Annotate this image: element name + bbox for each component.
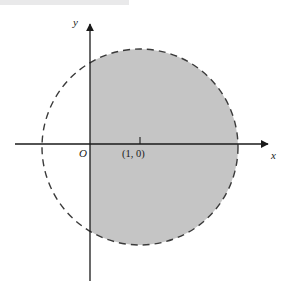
tick-label-one-zero: (1, 0) — [122, 149, 145, 160]
x-axis-label: x — [271, 150, 276, 161]
shaded-region — [42, 49, 238, 245]
figure-canvas: y x O (1, 0) — [0, 0, 285, 289]
y-axis-label: y — [73, 17, 78, 28]
origin-label: O — [79, 148, 87, 159]
cartesian-plane-figure — [0, 0, 285, 289]
